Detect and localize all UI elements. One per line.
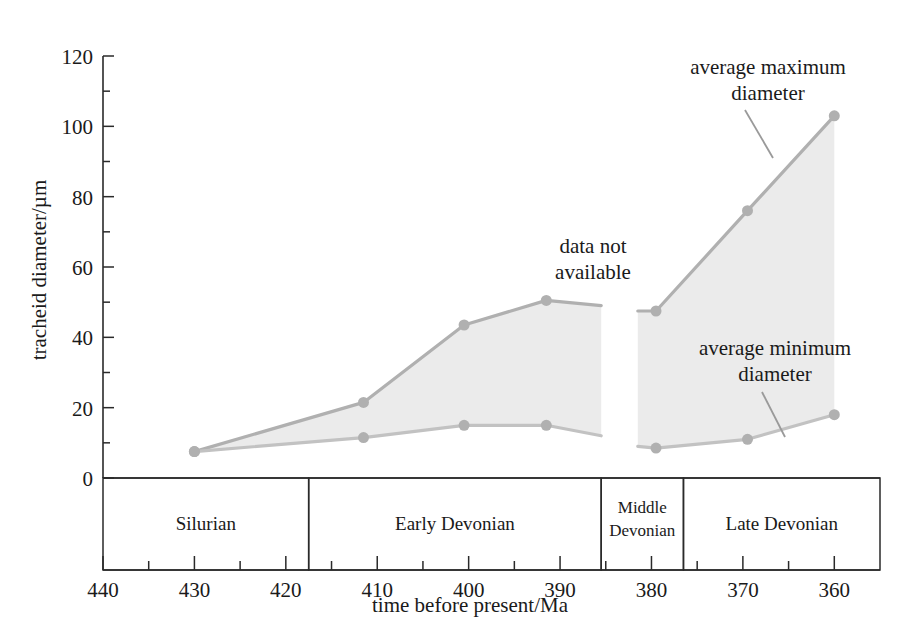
data-point <box>742 434 753 445</box>
period-label-late-devonian: Late Devonian <box>726 513 839 534</box>
x-axis-tick-label: 380 <box>636 578 668 602</box>
y-axis-title: tracheid diameter/µm <box>27 180 51 361</box>
band-fill-group <box>194 116 834 452</box>
annotation-data-not-available: data not available <box>555 234 631 284</box>
data-point <box>651 306 662 317</box>
annotation-min-line1: average minimum <box>699 336 851 360</box>
data-point <box>829 409 840 420</box>
x-axis-tick-label: 420 <box>270 578 302 602</box>
x-axis-tick-label: 440 <box>87 578 119 602</box>
y-axis-tick-labels: 020406080100120 <box>62 45 94 491</box>
data-point <box>651 443 662 454</box>
annotation-max-line2: diameter <box>731 81 804 105</box>
chart-figure: 020406080100120 440430420410400390380370… <box>0 0 916 638</box>
period-label-silurian: Silurian <box>176 513 237 534</box>
x-axis-tick-label: 370 <box>727 578 759 602</box>
data-point <box>742 205 753 216</box>
data-point <box>829 110 840 121</box>
annotation-max-line1: average maximum <box>690 55 846 79</box>
y-axis-tick-label: 40 <box>72 326 93 350</box>
x-axis-ticks <box>103 556 834 570</box>
annotation-min-line2: diameter <box>738 362 811 386</box>
annotation-gap-line1: data not <box>559 234 626 258</box>
data-point <box>541 420 552 431</box>
uncertainty-band-post-gap <box>638 116 835 448</box>
period-label-early-devonian: Early Devonian <box>395 513 515 534</box>
y-axis-ticks <box>103 56 114 478</box>
data-point <box>189 446 200 457</box>
data-point <box>459 420 470 431</box>
y-axis-tick-label: 100 <box>62 115 94 139</box>
annotation-max-leader-line <box>745 110 773 158</box>
x-axis-title: time before present/Ma <box>372 593 569 617</box>
y-axis-tick-label: 0 <box>83 467 94 491</box>
y-axis-tick-label: 20 <box>72 397 93 421</box>
chart-svg: 020406080100120 440430420410400390380370… <box>0 0 916 638</box>
period-label-middle-devonian: Middle <box>618 498 667 517</box>
x-axis-tick-label: 430 <box>179 578 211 602</box>
x-axis-tick-label: 360 <box>819 578 851 602</box>
period-label-middle-devonian: Devonian <box>609 521 676 540</box>
data-point <box>459 320 470 331</box>
data-point <box>541 295 552 306</box>
data-point <box>358 432 369 443</box>
annotation-gap-line2: available <box>555 260 631 284</box>
data-point <box>358 397 369 408</box>
y-axis-tick-label: 120 <box>62 45 94 69</box>
geologic-period-boxes: SilurianEarly DevonianMiddleDevonianLate… <box>103 478 880 570</box>
y-axis-tick-label: 80 <box>72 186 93 210</box>
y-axis-tick-label: 60 <box>72 256 93 280</box>
